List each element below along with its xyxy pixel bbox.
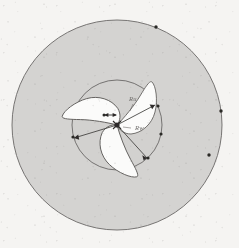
node-marker-outer (207, 153, 210, 156)
label-ru: Ru (128, 95, 137, 102)
node-marker-inner (159, 132, 162, 135)
node-marker-inner (156, 104, 159, 107)
label-rw: Rw (134, 124, 144, 131)
node-marker-outer (154, 25, 157, 28)
node-marker-outer (219, 109, 222, 112)
node-marker-inner (71, 135, 74, 138)
diagram-canvas: Ru Rw (0, 0, 239, 248)
node-marker-inner (146, 156, 149, 159)
node-marker-hub (103, 114, 106, 117)
propeller-diagram: Ru Rw (0, 0, 239, 248)
